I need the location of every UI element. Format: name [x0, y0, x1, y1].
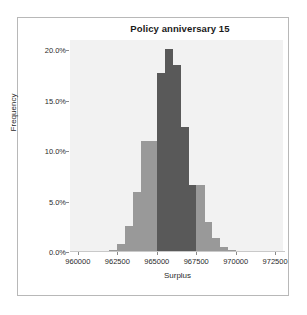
x-axis-label: Surplus — [70, 271, 285, 280]
y-axis-tick-label: 10.0% — [22, 147, 66, 156]
y-axis-tick-labels: 0.0%5.0%10.0%15.0%20.0% — [14, 0, 66, 315]
x-axis-tick-mark — [275, 252, 276, 255]
x-axis-tick-mark — [78, 252, 79, 255]
y-axis-tick-label: 0.0% — [22, 248, 66, 257]
y-axis-tick-label: 5.0% — [22, 197, 66, 206]
y-axis-label: Frequency — [9, 68, 18, 158]
y-axis-tick-mark — [66, 151, 69, 152]
y-axis-tick-mark — [66, 202, 69, 203]
chart-figure: Policy anniversary 15 0.0%5.0%10.0%15.0%… — [0, 0, 307, 315]
y-axis-tick-label: 20.0% — [22, 46, 66, 55]
y-axis-tick-mark — [66, 252, 69, 253]
x-axis-tick-mark — [157, 252, 158, 255]
x-axis-tick-mark — [196, 252, 197, 255]
chart-title: Policy anniversary 15 — [70, 23, 290, 34]
x-axis-tick-mark — [117, 252, 118, 255]
x-axis-tick-mark — [236, 252, 237, 255]
y-axis-tick-mark — [66, 50, 69, 51]
y-axis-tick-label: 15.0% — [22, 96, 66, 105]
x-axis-line — [70, 251, 285, 252]
y-axis-tick-mark — [66, 101, 69, 102]
x-axis-tick-label: 972500 — [252, 257, 298, 266]
plot-area — [70, 40, 283, 252]
